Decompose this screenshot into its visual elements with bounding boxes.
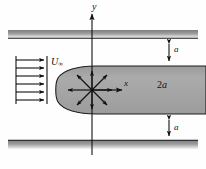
gap-top-label: a	[174, 45, 179, 54]
diagram-svg	[0, 0, 206, 169]
figure-canvas: y x U∞ a a 2a	[0, 0, 206, 169]
body-height-label: 2a	[157, 80, 167, 90]
freestream-infinity-subscript: ∞	[58, 60, 63, 68]
body-height-letter: a	[162, 79, 167, 90]
upper-wall	[8, 30, 198, 38]
velocity-profile	[16, 56, 47, 104]
lower-wall	[8, 140, 198, 149]
y-axis-label: y	[92, 2, 96, 12]
freestream-velocity-label: U∞	[51, 57, 63, 68]
x-axis-label: x	[124, 79, 128, 88]
gap-bottom-label: a	[174, 123, 179, 132]
